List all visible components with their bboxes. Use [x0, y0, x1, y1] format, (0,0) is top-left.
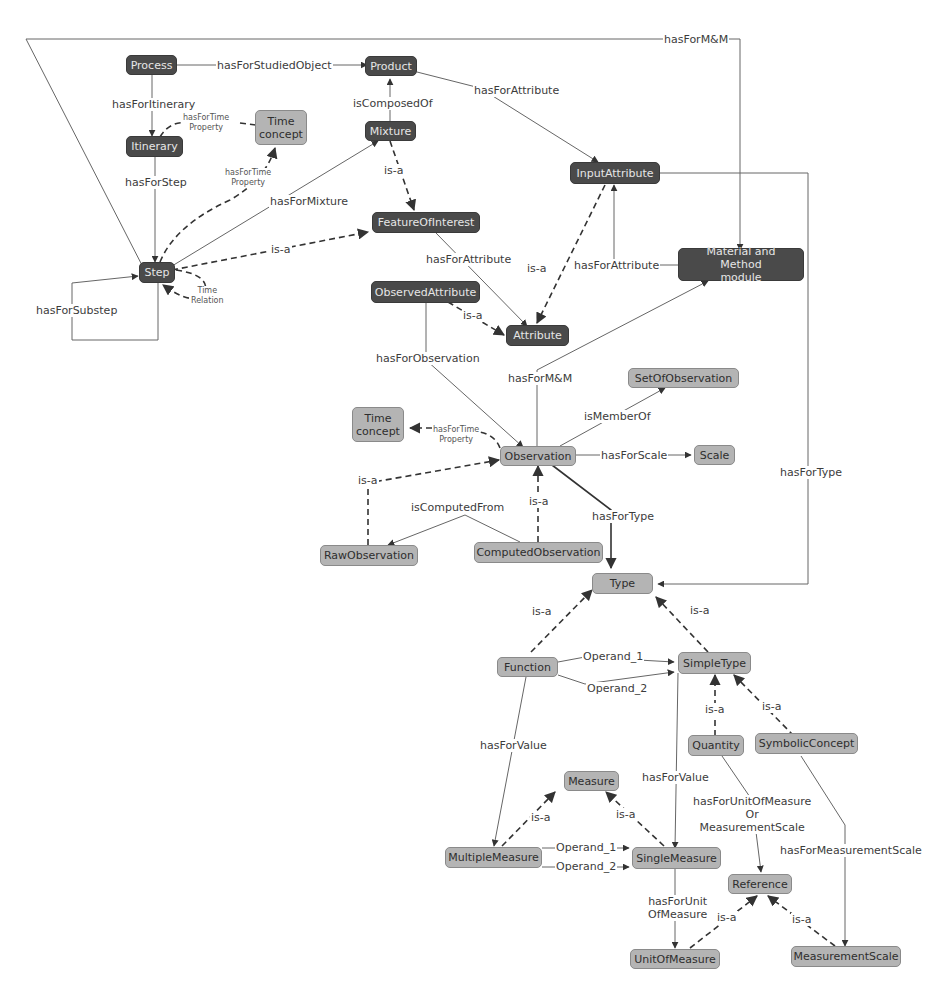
edge-label-operand-1-mm: Operand_1 — [555, 841, 617, 854]
node-simple-type[interactable]: SimpleType — [678, 652, 751, 674]
node-quantity[interactable]: Quantity — [688, 735, 744, 756]
node-observation[interactable]: Observation — [500, 446, 576, 466]
node-single-measure[interactable]: SingleMeasure — [632, 847, 721, 869]
node-measurement-scale[interactable]: MeasurementScale — [791, 946, 901, 967]
edge-label-has-for-attribute-1: hasForAttribute — [473, 84, 560, 97]
node-multiple-measure[interactable]: MultipleMeasure — [445, 847, 542, 868]
node-scale[interactable]: Scale — [694, 445, 735, 465]
node-process[interactable]: Process — [126, 55, 177, 75]
node-material-method-module[interactable]: Material and Method module — [678, 248, 804, 281]
node-set-of-observation[interactable]: SetOfObservation — [628, 368, 739, 388]
edge-label-operand-1-fn: Operand_1 — [582, 650, 644, 663]
node-input-attribute[interactable]: InputAttribute — [570, 162, 660, 184]
edge-label-has-for-mixture: hasForMixture — [269, 195, 349, 208]
edge-label-is-a-step: is-a — [270, 243, 292, 256]
edge-label-has-for-type-obs: hasForType — [591, 510, 655, 523]
node-raw-observation[interactable]: RawObservation — [320, 545, 418, 566]
edge-label-is-a-simple-type: is-a — [689, 604, 711, 617]
node-computed-observation[interactable]: ComputedObservation — [474, 542, 603, 563]
edge-label-has-for-mm-top: hasForM&M — [663, 33, 729, 46]
edge-label-is-a-observed-attr: is-a — [462, 309, 484, 322]
edge-label-has-for-value-st: hasForValue — [641, 771, 710, 784]
ontology-diagram: hasForM&M hasForStudiedObject hasForItin… — [0, 0, 942, 998]
node-product[interactable]: Product — [365, 56, 417, 76]
edge-label-has-for-scale: hasForScale — [600, 449, 668, 462]
edge-label-has-for-substep: hasForSubstep — [35, 304, 118, 317]
edge-label-is-a-symbolic: is-a — [761, 700, 783, 713]
edge-label-is-member-of: isMemberOf — [583, 410, 652, 423]
edge-label-has-for-attribute-3: hasForAttribute — [573, 259, 660, 272]
node-reference[interactable]: Reference — [728, 874, 792, 894]
node-function[interactable]: Function — [497, 657, 558, 677]
edge-label-is-a-multiple: is-a — [530, 811, 552, 824]
edge-label-has-for-studied-object: hasForStudiedObject — [216, 59, 333, 72]
edge-label-has-for-measurement-scale: hasForMeasurementScale — [779, 844, 923, 857]
edge-label-has-for-type-input: hasForType — [779, 466, 843, 479]
node-itinerary[interactable]: Itinerary — [126, 136, 183, 157]
edge-label-is-a-quantity: is-a — [704, 703, 726, 716]
edge-label-is-a-computed: is-a — [528, 495, 550, 508]
node-unit-of-measure[interactable]: UnitOfMeasure — [630, 949, 720, 969]
edge-label-has-for-unit-of-measure: hasForUnit OfMeasure — [647, 895, 708, 921]
node-time-concept-mid[interactable]: Time concept — [352, 407, 404, 442]
edge-label-is-composed-of: isComposedOf — [352, 97, 434, 110]
node-measure[interactable]: Measure — [564, 771, 619, 791]
edge-label-is-a-raw: is-a — [357, 474, 379, 487]
edge-label-is-a-input-attr: is-a — [526, 262, 548, 275]
edge-label-has-for-mm-obs: hasForM&M — [507, 372, 573, 385]
edge-label-is-a-mixture: is-a — [383, 164, 405, 177]
edge-label-has-for-itinerary: hasForItinerary — [111, 98, 196, 111]
edge-label-has-for-time-property-3: hasForTime Property — [432, 425, 480, 445]
edge-label-is-a-uom: is-a — [716, 911, 738, 924]
edge-label-has-for-observation: hasForObservation — [375, 352, 481, 365]
edge-label-has-for-time-property-2: hasForTime Property — [224, 168, 272, 188]
edge-label-is-a-single: is-a — [615, 808, 637, 821]
edge-label-is-computed-from: isComputedFrom — [410, 501, 505, 514]
edge-label-time-relation: Time Relation — [190, 286, 225, 306]
edge-label-has-for-attribute-2: hasForAttribute — [425, 253, 512, 266]
node-mixture[interactable]: Mixture — [365, 121, 416, 141]
edge-label-has-for-value-fn: hasForValue — [479, 739, 548, 752]
edge-label-operand-2-fn: Operand_2 — [586, 682, 648, 695]
node-time-concept-top[interactable]: Time concept — [255, 110, 307, 145]
node-symbolic-concept[interactable]: SymbolicConcept — [755, 733, 858, 754]
node-step[interactable]: Step — [139, 262, 175, 283]
node-feature-of-interest[interactable]: FeatureOfInterest — [372, 212, 480, 233]
edge-label-is-a-ms: is-a — [791, 913, 813, 926]
edge-label-has-for-step: hasForStep — [124, 176, 188, 189]
node-attribute[interactable]: Attribute — [506, 325, 569, 346]
edge-label-has-for-uom-or-ms: hasForUnitOfMeasure Or MeasurementScale — [692, 795, 812, 834]
node-observed-attribute[interactable]: ObservedAttribute — [371, 281, 480, 303]
edge-label-is-a-function: is-a — [531, 605, 553, 618]
edge-label-operand-2-mm: Operand_2 — [555, 860, 617, 873]
edge-label-has-for-time-property-1: hasForTime Property — [182, 113, 230, 133]
node-type[interactable]: Type — [592, 573, 653, 594]
